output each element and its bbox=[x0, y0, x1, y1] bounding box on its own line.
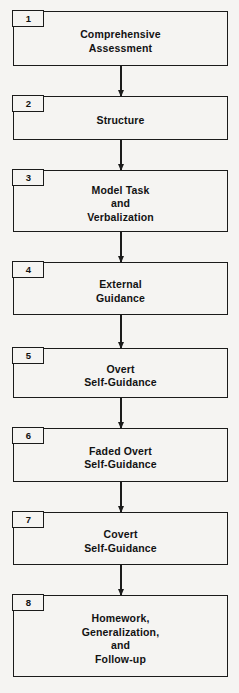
step-label-line: Assessment bbox=[89, 42, 152, 56]
step-number-tab-5: 5 bbox=[12, 347, 44, 364]
connector-arrow-3-to-4 bbox=[120, 232, 122, 262]
step-label-line: Structure bbox=[96, 114, 144, 128]
step-box-6[interactable]: 6Faded OvertSelf-Guidance bbox=[13, 428, 228, 482]
step-box-2[interactable]: 2Structure bbox=[13, 96, 228, 140]
flowchart: 1ComprehensiveAssessment2Structure3Model… bbox=[0, 0, 239, 693]
step-label-7: CovertSelf-Guidance bbox=[14, 513, 227, 564]
connector-arrow-1-to-2 bbox=[120, 66, 122, 96]
step-number-label: 3 bbox=[26, 173, 31, 183]
step-label-line: Generalization, bbox=[82, 626, 160, 640]
step-label-line: and bbox=[111, 639, 130, 653]
step-label-3: Model TaskandVerbalization bbox=[14, 171, 227, 231]
step-label-line: Verbalization bbox=[87, 211, 154, 225]
step-label-line: Model Task bbox=[92, 184, 150, 198]
connector-arrow-2-to-3 bbox=[120, 140, 122, 170]
step-number-label: 6 bbox=[26, 431, 31, 441]
step-box-5[interactable]: 5OvertSelf-Guidance bbox=[13, 348, 228, 398]
step-label-4: ExternalGuidance bbox=[14, 263, 227, 314]
connector-arrow-6-to-7 bbox=[120, 482, 122, 512]
step-number-tab-1: 1 bbox=[12, 10, 44, 27]
step-label-line: Overt bbox=[106, 363, 134, 377]
step-number-label: 4 bbox=[26, 265, 31, 275]
step-box-7[interactable]: 7CovertSelf-Guidance bbox=[13, 512, 228, 565]
step-number-tab-7: 7 bbox=[12, 511, 44, 528]
step-label-6: Faded OvertSelf-Guidance bbox=[14, 429, 227, 481]
step-label-8: Homework,Generalization,andFollow-up bbox=[14, 596, 227, 676]
connector-arrow-5-to-6 bbox=[120, 398, 122, 428]
step-label-line: Homework, bbox=[92, 612, 150, 626]
step-label-5: OvertSelf-Guidance bbox=[14, 349, 227, 397]
step-box-4[interactable]: 4ExternalGuidance bbox=[13, 262, 228, 315]
step-label-line: External bbox=[99, 278, 142, 292]
step-box-8[interactable]: 8Homework,Generalization,andFollow-up bbox=[13, 595, 228, 677]
step-label-1: ComprehensiveAssessment bbox=[14, 12, 227, 65]
step-box-1[interactable]: 1ComprehensiveAssessment bbox=[13, 11, 228, 66]
step-label-line: Self-Guidance bbox=[84, 376, 157, 390]
connector-arrow-7-to-8 bbox=[120, 565, 122, 595]
step-number-tab-2: 2 bbox=[12, 95, 44, 112]
step-number-tab-6: 6 bbox=[12, 427, 44, 444]
step-label-line: Self-Guidance bbox=[84, 458, 157, 472]
step-number-tab-3: 3 bbox=[12, 169, 44, 186]
step-label-line: and bbox=[111, 197, 130, 211]
step-label-line: Covert bbox=[103, 528, 137, 542]
step-number-label: 1 bbox=[26, 14, 31, 24]
step-label-line: Self-Guidance bbox=[84, 542, 157, 556]
step-number-label: 8 bbox=[26, 598, 31, 608]
step-label-line: Guidance bbox=[96, 292, 145, 306]
step-label-line: Faded Overt bbox=[89, 445, 152, 459]
connector-arrow-4-to-5 bbox=[120, 315, 122, 348]
step-label-line: Follow-up bbox=[95, 653, 146, 667]
step-label-2: Structure bbox=[14, 97, 227, 139]
step-number-label: 5 bbox=[26, 351, 31, 361]
step-number-label: 2 bbox=[26, 99, 31, 109]
step-number-label: 7 bbox=[26, 515, 31, 525]
step-label-line: Comprehensive bbox=[80, 28, 161, 42]
step-number-tab-8: 8 bbox=[12, 594, 44, 611]
step-number-tab-4: 4 bbox=[12, 261, 44, 278]
step-box-3[interactable]: 3Model TaskandVerbalization bbox=[13, 170, 228, 232]
